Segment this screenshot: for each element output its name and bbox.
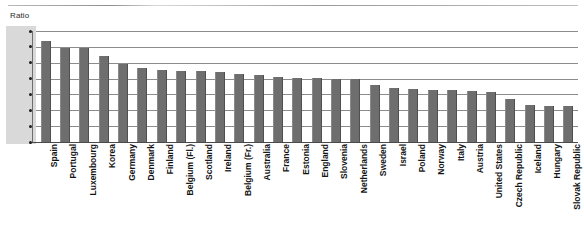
top-divider xyxy=(8,5,578,6)
bar xyxy=(196,71,206,142)
chart-figure: Ratio 0.00.20.40.60.81.01.21.4 SpainPort… xyxy=(0,0,584,231)
bar xyxy=(544,106,554,142)
bar xyxy=(118,64,128,142)
x-tick-label: Austria xyxy=(475,144,485,173)
bar xyxy=(79,48,89,142)
bar xyxy=(157,70,167,142)
bar xyxy=(234,74,244,142)
y-tick-marker xyxy=(29,93,32,96)
bar xyxy=(447,90,457,142)
bar xyxy=(350,79,360,142)
x-tick-label: Korea xyxy=(107,144,117,168)
x-axis-labels: SpainPortugalLuxembourgKoreaGermanyDenma… xyxy=(36,144,578,230)
bar xyxy=(525,105,535,142)
bar xyxy=(176,71,186,142)
plot-area: 0.00.20.40.60.81.01.21.4 xyxy=(36,31,578,142)
x-tick-label: Australia xyxy=(262,144,272,180)
y-tick-marker xyxy=(29,125,32,128)
bar xyxy=(312,78,322,142)
bar xyxy=(467,91,477,142)
x-tick-label: Poland xyxy=(417,144,427,172)
x-tick-label: Norway xyxy=(436,144,446,175)
y-axis-line xyxy=(32,31,33,143)
bar xyxy=(273,77,283,142)
bar xyxy=(370,85,380,142)
x-tick-label: Sweden xyxy=(378,144,388,176)
y-tick-marker xyxy=(29,109,32,112)
bar xyxy=(60,48,70,142)
x-tick-label: United States xyxy=(494,144,504,198)
x-tick-label: Slovenia xyxy=(339,144,349,179)
x-tick-label: Iceland xyxy=(533,144,543,173)
bar xyxy=(486,92,496,142)
x-tick-label: Denmark xyxy=(146,144,156,180)
x-tick-label: Ireland xyxy=(223,144,233,172)
y-axis-title: Ratio xyxy=(10,11,29,20)
x-tick-label: Spain xyxy=(49,144,59,167)
x-tick-label: Netherlands xyxy=(359,144,369,193)
bar xyxy=(505,99,515,142)
x-tick-label: Czech Republic xyxy=(514,144,524,207)
x-tick-label: France xyxy=(281,144,291,172)
x-tick-label: Scotland xyxy=(204,144,214,180)
bar xyxy=(563,106,573,142)
x-tick-label: Estonia xyxy=(301,144,311,175)
bar xyxy=(137,68,147,142)
x-tick-label: Finland xyxy=(165,144,175,174)
x-tick-label: Germany xyxy=(127,144,137,181)
x-tick-label: England xyxy=(320,144,330,178)
bar xyxy=(292,78,302,142)
bar xyxy=(428,90,438,142)
bar xyxy=(331,79,341,142)
x-tick-label: Portugal xyxy=(68,144,78,178)
bar xyxy=(389,88,399,142)
x-tick-label: Luxembourg xyxy=(88,144,98,195)
x-tick-label: Belgium (Fr.) xyxy=(243,144,253,196)
x-tick-label: Italy xyxy=(456,144,466,161)
bar-series xyxy=(36,31,578,142)
bar xyxy=(215,72,225,142)
x-tick-label: Slovak Republic xyxy=(572,144,582,210)
x-tick-label: Israel xyxy=(398,144,408,166)
x-tick-label: Belgium (Fl.) xyxy=(185,144,195,195)
bar xyxy=(254,75,264,142)
y-tick-marker xyxy=(29,141,32,144)
y-tick-marker xyxy=(29,30,32,33)
bar xyxy=(41,41,51,142)
bar xyxy=(99,56,109,142)
x-tick-label: Hungary xyxy=(552,144,562,178)
bar xyxy=(408,89,418,142)
